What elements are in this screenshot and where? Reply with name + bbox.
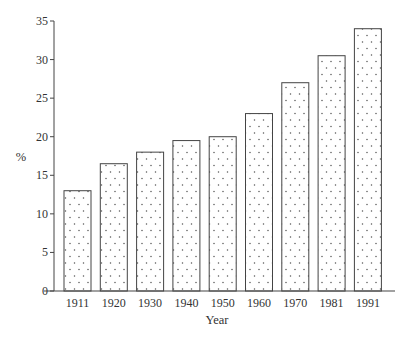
bar-1940 — [173, 141, 200, 291]
bar-1970 — [282, 83, 309, 291]
y-tick-label: 10 — [36, 207, 48, 221]
bar-1950 — [209, 137, 236, 291]
x-tick-label: 1930 — [138, 296, 162, 310]
x-axis: 191119201930194019501960197019811991 — [44, 291, 395, 310]
y-axis-title: % — [16, 150, 26, 164]
y-tick-label: 20 — [36, 130, 48, 144]
bar-1911 — [64, 191, 91, 291]
y-tick-label: 30 — [36, 53, 48, 67]
y-tick-label: 25 — [36, 91, 48, 105]
bar-1960 — [246, 114, 273, 291]
y-axis: 05101520253035 — [36, 14, 54, 298]
x-tick-label: 1981 — [320, 296, 344, 310]
bar-1930 — [137, 152, 164, 291]
bar-chart: 05101520253035 1911192019301940195019601… — [0, 0, 411, 339]
bar-1920 — [100, 164, 127, 291]
x-tick-label: 1911 — [66, 296, 90, 310]
bar-1981 — [318, 56, 345, 291]
x-tick-label: 1991 — [356, 296, 380, 310]
y-tick-label: 35 — [36, 14, 48, 28]
x-tick-label: 1970 — [283, 296, 307, 310]
x-tick-label: 1950 — [211, 296, 235, 310]
bar-1991 — [354, 29, 381, 291]
y-tick-label: 5 — [42, 245, 48, 259]
x-tick-label: 1960 — [247, 296, 271, 310]
y-tick-label: 15 — [36, 168, 48, 182]
bars — [64, 29, 381, 291]
x-axis-title: Year — [205, 313, 229, 327]
x-tick-label: 1920 — [102, 296, 126, 310]
x-tick-label: 1940 — [174, 296, 198, 310]
